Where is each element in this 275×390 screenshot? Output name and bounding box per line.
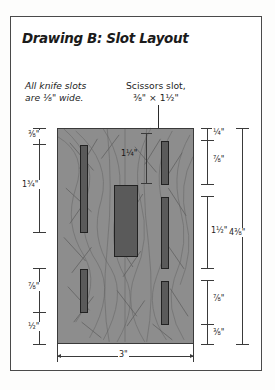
right-bottom-margin-label: ⅜": [212, 328, 225, 337]
slot-knife-right-upper: [161, 141, 169, 185]
figure-title: Drawing B: Slot Layout: [22, 30, 188, 46]
right-dim-seg-2: [207, 140, 208, 184]
left-tick-bottom: [33, 344, 46, 345]
overall-height-tick-bottom: [236, 344, 249, 345]
knife-slots-note: All knife slots are ⅛" wide.: [25, 80, 86, 103]
knife-block-board: 1¼": [57, 128, 194, 344]
right-dim-seg-3: [207, 196, 208, 268]
right-dim-seg-1: [207, 128, 208, 140]
slot-knife-right-lower: [161, 281, 169, 325]
right-upper-slot-length-label: ⅞": [212, 155, 225, 164]
scissors-offset-tick-bottom: [141, 183, 152, 184]
right-dim-seg-4: [207, 280, 208, 324]
drawing-figure: Drawing B: Slot Layout All knife slots a…: [0, 0, 275, 390]
scissors-leader-line: [158, 105, 159, 129]
left-lower-slot-length-label: ⅞": [27, 282, 40, 291]
scissors-slot-note: Scissors slot, ⅜" × 1½": [126, 80, 186, 103]
slot-scissors: [114, 185, 138, 257]
right-top-margin-label: ¼": [212, 128, 225, 137]
left-top-margin-label: ⅜": [27, 130, 40, 139]
overall-width-arrow-left: [57, 354, 61, 358]
right-tick-2: [201, 184, 214, 185]
scissors-offset-dim-line: [146, 133, 147, 183]
overall-height-label: 4⅜": [228, 228, 247, 237]
left-bottom-margin-label: ½": [27, 322, 40, 331]
overall-width-label: 3": [118, 350, 129, 359]
right-dim-seg-5: [207, 324, 208, 344]
scissors-offset-label: 1¼": [120, 149, 139, 158]
scissors-offset-tick-top: [141, 133, 152, 134]
left-tick-2: [33, 232, 46, 233]
slot-knife-left-long: [80, 145, 88, 233]
right-lower-slot-length-label: ⅞": [212, 294, 225, 303]
overall-width-arrow-right: [190, 354, 194, 358]
slot-knife-left-short: [80, 269, 88, 313]
right-tick-4: [201, 268, 214, 269]
right-middle-slot-length-label: 1½": [210, 226, 229, 235]
slot-knife-right-middle: [161, 197, 169, 269]
left-knife-slot-length-label: 1¾": [21, 180, 40, 189]
right-tick-bottom: [201, 344, 214, 345]
